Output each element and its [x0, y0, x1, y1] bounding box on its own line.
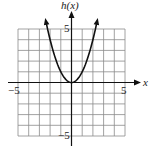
- y-axis-label: h(x): [61, 0, 79, 12]
- y-tick-min: −5: [58, 129, 70, 141]
- x-axis-label: x: [142, 76, 148, 88]
- curve-arrow-left-icon: [44, 18, 49, 25]
- y-axis-arrow-icon: [69, 11, 75, 18]
- x-tick-max: 5: [121, 84, 127, 96]
- function-graph: h(x) x −5 5 5 −5: [0, 0, 157, 151]
- x-axis-arrow-icon: [134, 80, 141, 86]
- curve-arrow-right-icon: [94, 18, 99, 25]
- x-tick-min: −5: [8, 84, 20, 96]
- y-tick-max: 5: [64, 22, 70, 34]
